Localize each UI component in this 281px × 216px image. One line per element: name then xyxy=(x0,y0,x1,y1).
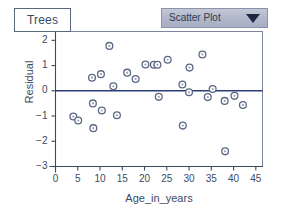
chevron-down-icon[interactable] xyxy=(246,14,260,23)
scatter-point-center xyxy=(72,115,74,117)
y-axis-label: Residual xyxy=(23,47,35,117)
x-tick-label: 35 xyxy=(200,174,222,184)
scatter-plot-window: Trees Scatter Plot Residual Age_in_years… xyxy=(0,0,281,216)
x-tick-label: 45 xyxy=(245,174,267,184)
scatter-points xyxy=(70,42,246,154)
scatter-point-center xyxy=(91,77,93,79)
scatter-point-center xyxy=(144,63,146,65)
scatter-point-center xyxy=(112,85,114,87)
scatter-point-center xyxy=(182,125,184,127)
y-tick-label: −3 xyxy=(30,161,48,171)
scatter-point-center xyxy=(116,114,118,116)
scatter-point-center xyxy=(92,102,94,104)
y-tick-label: 0 xyxy=(30,85,48,95)
x-tick-label: 20 xyxy=(134,174,156,184)
x-tick-label: 0 xyxy=(45,174,67,184)
x-tick-label: 30 xyxy=(178,174,200,184)
scatter-point-center xyxy=(77,119,79,121)
dataset-title-label: Trees xyxy=(27,14,58,26)
y-tick-label: −2 xyxy=(30,136,48,146)
scatter-point-center xyxy=(188,66,190,68)
scatter-point-center xyxy=(181,83,183,85)
scatter-point-center xyxy=(92,127,94,129)
y-tick-label: −1 xyxy=(30,111,48,121)
scatter-point-center xyxy=(224,150,226,152)
scatter-point-center xyxy=(100,73,102,75)
dataset-title-tab[interactable]: Trees xyxy=(14,8,71,32)
scatter-point-center xyxy=(233,95,235,97)
x-tick-label: 40 xyxy=(223,174,245,184)
x-tick-label: 25 xyxy=(156,174,178,184)
scatter-point-center xyxy=(101,109,103,111)
x-tick-label: 10 xyxy=(89,174,111,184)
scatter-point-center xyxy=(207,96,209,98)
scatter-point-center xyxy=(126,72,128,74)
plot-type-dropdown[interactable]: Scatter Plot xyxy=(161,8,268,28)
scatter-point-center xyxy=(156,64,158,66)
scatter-point-center xyxy=(242,104,244,106)
scatter-point-center xyxy=(167,59,169,61)
scatter-point-center xyxy=(108,45,110,47)
chart-axes xyxy=(50,31,264,173)
x-axis-label: Age_in_years xyxy=(55,192,263,204)
scatter-point-center xyxy=(158,96,160,98)
plot-type-selected-label: Scatter Plot xyxy=(169,13,246,23)
chart-canvas xyxy=(0,0,281,216)
x-tick-label: 15 xyxy=(111,174,133,184)
scatter-point-center xyxy=(212,88,214,90)
scatter-point-center xyxy=(135,78,137,80)
scatter-point-center xyxy=(201,53,203,55)
y-tick-label: 2 xyxy=(30,35,48,45)
scatter-point-center xyxy=(188,91,190,93)
x-tick-label: 5 xyxy=(67,174,89,184)
y-tick-label: 1 xyxy=(30,60,48,70)
scatter-point-center xyxy=(224,100,226,102)
